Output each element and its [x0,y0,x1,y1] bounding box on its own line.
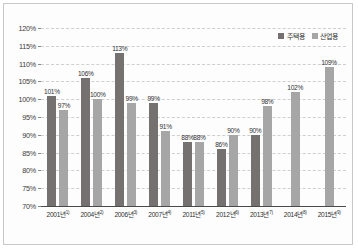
bar[interactable]: 106% [81,78,90,206]
bar-group: 86%90% [210,28,244,206]
x-axis-label: 2015년9) [312,209,346,219]
bar-value-label: 90% [227,127,239,134]
bar-groups: 101%97%106%100%113%99%99%91%88%88%86%90%… [41,28,346,206]
bar-value-label: 88% [193,134,205,141]
bar[interactable]: 90% [229,135,238,206]
y-axis-label: 120% [18,24,36,33]
bar[interactable]: 97% [59,110,68,206]
bar-group: 101%97% [41,28,75,206]
bar[interactable]: 113% [115,53,124,206]
x-axis-label: 2011년5) [177,209,211,219]
y-axis-label: 95% [22,113,36,122]
bar-value-label: 101% [44,88,60,95]
bar-group: 88%88% [177,28,211,206]
bar[interactable]: 86% [217,149,226,206]
bar-group: 90%98% [244,28,278,206]
bar-value-label: 98% [261,98,273,105]
x-axis-label: 2014년8) [278,209,312,219]
bar-group: 106%100% [75,28,109,206]
bar[interactable]: 88% [195,142,204,206]
y-axis-tick [38,206,41,207]
bar[interactable]: 98% [263,106,272,206]
bar-value-label: 86% [215,141,227,148]
x-axis-label: 2013년7) [244,209,278,219]
y-axis-label: 90% [22,130,36,139]
bar-value-label: 109% [321,59,337,66]
bar[interactable]: 102% [291,92,300,206]
x-axis-label: 2006년3) [109,209,143,219]
y-axis-label: 110% [19,59,36,68]
y-axis-label: 75% [22,184,36,193]
bar-group: 99%91% [143,28,177,206]
x-axis-label: 2007년4) [143,209,177,219]
bar-value-label: 99% [126,95,138,102]
bar-value-label: 97% [58,102,70,109]
bar-group: 113%99% [109,28,143,206]
bar[interactable]: 91% [161,131,170,206]
bar-value-label: 90% [249,127,261,134]
bar[interactable]: 90% [251,135,260,206]
y-axis-label: 70% [22,202,36,211]
bar[interactable]: 88% [183,142,192,206]
x-axis-label: 2004년2) [75,209,109,219]
y-axis-label: 100% [18,95,36,104]
x-axis-label: 2001년1) [41,209,75,219]
bar-value-label: 106% [78,70,94,77]
chart-frame: 주택용 산업용 120%115%110%105%100%95%90%85%80%… [3,3,353,245]
gridline [41,206,346,207]
bar[interactable]: 101% [47,96,56,206]
bar-value-label: 99% [147,95,159,102]
x-axis-label: 2012년6) [210,209,244,219]
plot-area: 120%115%110%105%100%95%90%85%80%75%70% 1… [41,28,346,206]
bar-value-label: 88% [181,134,193,141]
x-axis: 2001년1)2004년2)2006년3)2007년4)2011년5)2012년… [41,209,346,219]
bar-value-label: 113% [112,45,127,52]
bar[interactable]: 100% [93,99,102,206]
y-axis-label: 105% [18,77,36,86]
bar-value-label: 102% [287,84,303,91]
bar-value-label: 91% [159,123,171,130]
bar[interactable]: 109% [325,67,334,206]
bar-group: 109% [312,28,346,206]
y-axis-label: 85% [22,148,36,157]
bar-group: 102% [278,28,312,206]
bar-value-label: 100% [90,91,106,98]
y-axis-label: 80% [22,166,36,175]
bar[interactable]: 99% [149,103,158,206]
bar[interactable]: 99% [127,103,136,206]
y-axis-label: 115% [19,41,36,50]
